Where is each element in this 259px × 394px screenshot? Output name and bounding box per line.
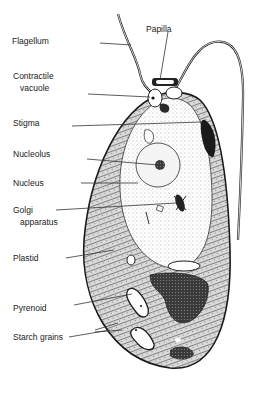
label-nucleolus: Nucleolus xyxy=(13,149,50,160)
label-pyrenoid: Pyrenoid xyxy=(13,303,47,314)
label-golgi: Golgi xyxy=(13,205,33,216)
label-apparatus: apparatus xyxy=(20,217,58,228)
label-nucleus: Nucleus xyxy=(13,178,44,189)
contractile-vacuole-shape-2 xyxy=(166,87,182,99)
label-papilla: Papilla xyxy=(146,24,172,35)
papilla-shape xyxy=(152,78,178,86)
label-stigma: Stigma xyxy=(13,118,39,129)
contractile-vacuole-shape xyxy=(148,89,162,107)
label-contractile: Contractile xyxy=(13,71,54,82)
label-plastid: Plastid xyxy=(13,253,39,264)
label-vacuole: vacuole xyxy=(20,83,49,94)
label-starch-grains: Starch grains xyxy=(13,332,63,343)
label-flagellum: Flagellum xyxy=(12,36,49,47)
